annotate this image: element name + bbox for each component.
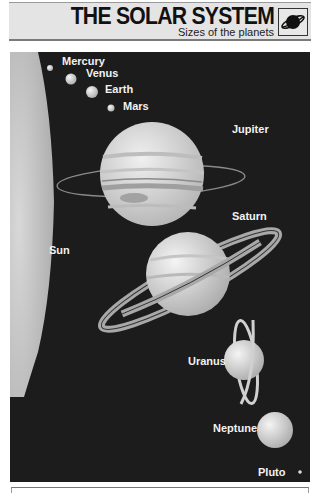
label-neptune: Neptune (213, 422, 257, 434)
sun-shape (10, 52, 54, 397)
page-title: THE SOLAR SYSTEM (71, 4, 274, 28)
ringed-planet-icon (278, 8, 308, 36)
label-mercury: Mercury (62, 55, 105, 67)
label-uranus: Uranus (188, 355, 226, 367)
footer-box (11, 487, 309, 493)
solar-system-illustration: Mercury Venus Earth Mars Jupiter Saturn … (10, 52, 310, 482)
header-band: THE SOLAR SYSTEM Sizes of the planets (9, 2, 311, 41)
label-mars: Mars (123, 100, 149, 112)
label-venus: Venus (86, 67, 118, 79)
label-pluto: Pluto (258, 466, 286, 478)
label-jupiter: Jupiter (232, 123, 269, 135)
label-earth: Earth (105, 83, 133, 95)
page-subtitle: Sizes of the planets (178, 26, 274, 38)
label-sun: Sun (49, 244, 70, 256)
page: THE SOLAR SYSTEM Sizes of the planets (0, 0, 320, 493)
label-saturn: Saturn (232, 210, 267, 222)
